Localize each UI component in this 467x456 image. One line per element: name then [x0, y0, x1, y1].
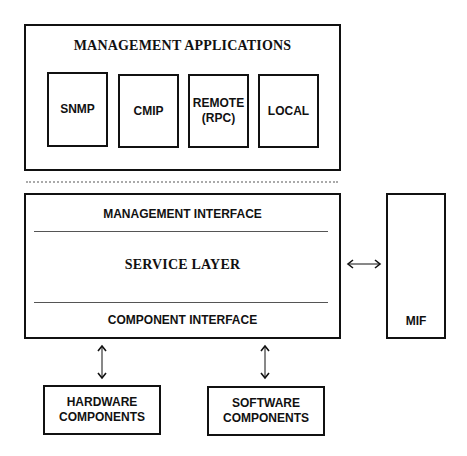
dotted-separator — [26, 181, 338, 183]
hardware-components-box: HARDWARE COMPONENTS — [43, 385, 161, 435]
management-applications-title: MANAGEMENT APPLICATIONS — [26, 38, 339, 54]
software-components-box: SOFTWARE COMPONENTS — [207, 386, 325, 436]
hardware-components-label: HARDWARE COMPONENTS — [59, 395, 145, 425]
mif-box: MIF — [386, 193, 446, 339]
service-layer-block: MANAGEMENT INTERFACE SERVICE LAYER COMPO… — [24, 193, 341, 339]
bidirectional-arrow-software — [260, 344, 270, 380]
app-label-remote-rpc: REMOTE (RPC) — [193, 96, 244, 126]
management-interface-label: MANAGEMENT INTERFACE — [26, 207, 339, 221]
app-label-snmp: SNMP — [60, 102, 95, 117]
management-interface-divider — [34, 231, 328, 232]
app-box-cmip: CMIP — [118, 74, 179, 148]
bidirectional-arrow-hardware — [97, 344, 107, 380]
app-box-remote-rpc: REMOTE (RPC) — [188, 74, 249, 148]
app-box-local: LOCAL — [258, 74, 319, 148]
bidirectional-arrow-service-mif — [346, 259, 382, 269]
component-interface-divider — [34, 302, 328, 303]
mif-label: MIF — [388, 314, 444, 328]
service-layer-label: SERVICE LAYER — [26, 257, 339, 273]
component-interface-label: COMPONENT INTERFACE — [26, 313, 339, 327]
app-box-snmp: SNMP — [47, 72, 108, 147]
app-label-local: LOCAL — [268, 104, 309, 119]
software-components-label: SOFTWARE COMPONENTS — [223, 396, 309, 426]
app-label-cmip: CMIP — [134, 104, 164, 119]
